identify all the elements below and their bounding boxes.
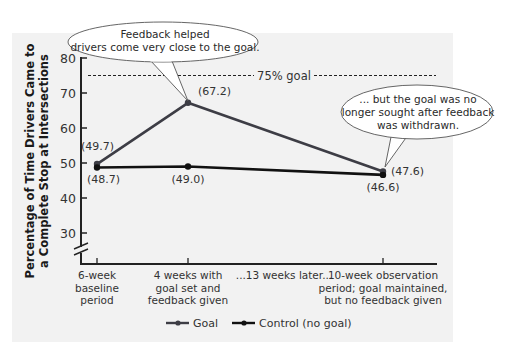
- annotation-bubble-withdrawn: ... but the goal was no longer sought af…: [341, 85, 495, 167]
- series-line-goal: [97, 103, 383, 172]
- y-axis-label: Percentage of Time Drivers Came to a Com…: [23, 43, 51, 278]
- goal-reference-label: 75% goal: [257, 69, 311, 83]
- x-category-label: ...13 weeks later...: [236, 269, 332, 281]
- annotation-text-line-2: longer sought after feedback: [342, 106, 495, 118]
- annotation-text-line-2: drivers come very close to the goal.: [70, 41, 259, 53]
- data-point-marker: [185, 163, 191, 169]
- data-point-marker: [94, 164, 100, 170]
- x-category-label: but no feedback given: [324, 294, 442, 306]
- legend: Goal Control (no goal): [166, 317, 352, 330]
- x-category-labels: 6-weekbaselineperiod4 weeks withgoal set…: [75, 269, 447, 306]
- annotation-text-line-3: was withdrawn.: [377, 119, 459, 131]
- data-point-label: (46.6): [366, 181, 399, 194]
- x-category-label: feedback given: [148, 294, 228, 306]
- y-axis-label-line-1: Percentage of Time Drivers Came to: [23, 43, 37, 278]
- x-category-label: 4 weeks with: [154, 269, 223, 281]
- annotation-text-line-1: Feedback helped: [120, 28, 209, 40]
- data-point-label: (49.0): [171, 173, 204, 186]
- x-category-label: 10-week observation: [328, 269, 438, 281]
- data-point-label: (67.2): [198, 85, 231, 98]
- legend-goal-marker-icon: [175, 320, 180, 325]
- bubble-tail: [150, 60, 188, 101]
- annotation-text-line-1: ... but the goal was no: [359, 93, 476, 105]
- legend-goal-label: Goal: [193, 317, 218, 330]
- legend-item-control: Control (no goal): [232, 317, 352, 330]
- data-point-marker: [380, 172, 386, 178]
- series-line-control: [97, 167, 383, 175]
- y-tick-label: 30: [60, 226, 76, 241]
- legend-control-label: Control (no goal): [259, 317, 352, 330]
- goal-reference-line: 75% goal: [88, 69, 436, 83]
- y-tick-label: 60: [60, 121, 76, 136]
- y-tick-label: 70: [60, 86, 76, 101]
- y-tick-label: 40: [60, 191, 76, 206]
- x-category-label: 6-week: [78, 269, 117, 281]
- data-point-label: (48.7): [87, 173, 120, 186]
- x-category-label: period: [80, 294, 113, 306]
- data-point-label: (47.6): [391, 165, 424, 178]
- legend-control-marker-icon: [241, 320, 246, 325]
- legend-item-goal: Goal: [166, 317, 218, 330]
- x-category-label: goal set and: [156, 282, 221, 294]
- y-axis-label-line-2: a Complete Stop at Intersections: [37, 54, 51, 268]
- x-category-label: period; goal maintained,: [319, 282, 448, 294]
- x-category-label: baseline: [75, 282, 119, 294]
- y-tick-label: 50: [60, 156, 76, 171]
- line-chart: Percentage of Time Drivers Came to a Com…: [0, 0, 506, 358]
- data-point-label: (49.7): [81, 140, 114, 153]
